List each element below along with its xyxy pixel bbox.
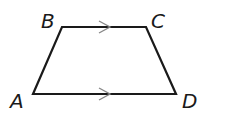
vertex-label-d: D xyxy=(182,89,197,113)
trapezoid-abcd xyxy=(33,27,176,94)
vertex-label-b: B xyxy=(41,9,55,33)
vertex-label-a: A xyxy=(8,89,24,113)
trapezoid-diagram: B C A D xyxy=(0,0,230,120)
vertex-label-c: C xyxy=(151,9,165,33)
